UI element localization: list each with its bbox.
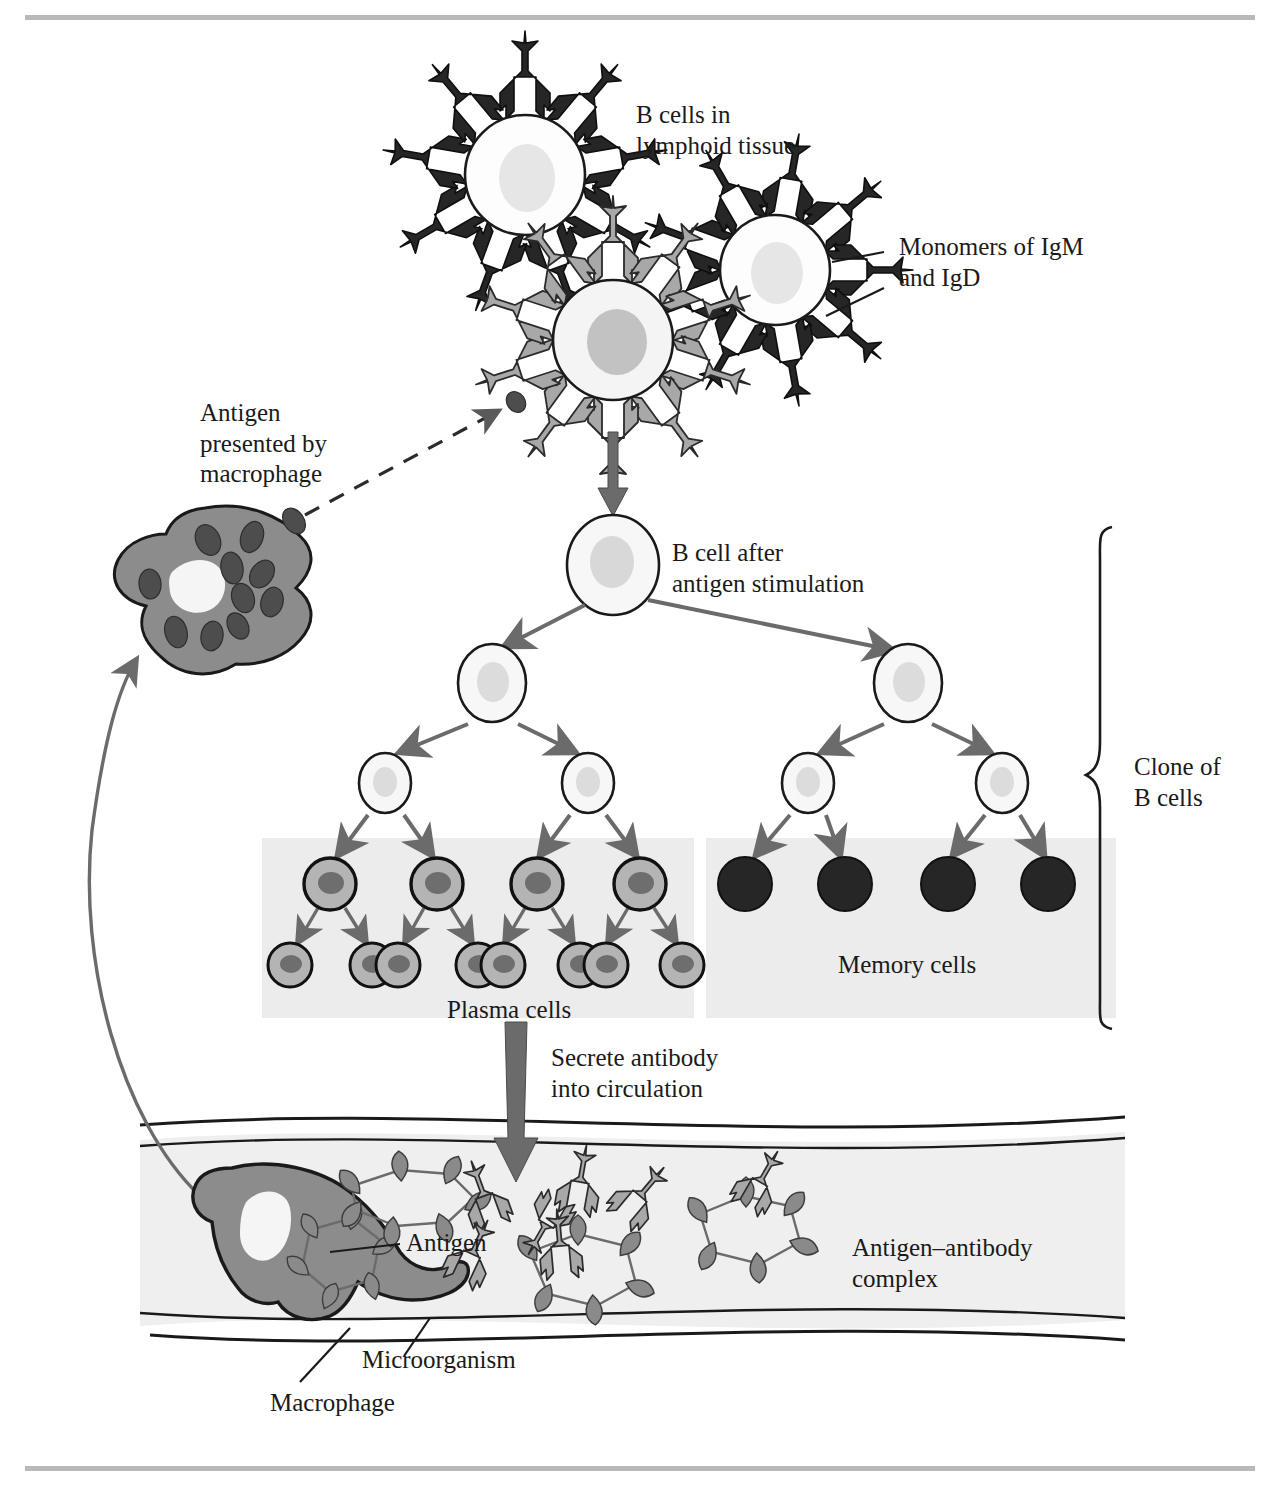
circulation-return-arrow <box>89 660 200 1196</box>
immune-response-diagram <box>0 0 1286 1492</box>
label-secrete-antibody: Secrete antibody into circulation <box>551 1043 718 1104</box>
label-macrophage: Macrophage <box>270 1388 395 1419</box>
figure-canvas: B cells in lymphoid tissue Monomers of I… <box>0 0 1286 1492</box>
clone-generation-2 <box>359 753 1028 813</box>
label-b-cells-lymphoid: B cells in lymphoid tissue <box>636 100 795 161</box>
label-memory-cells: Memory cells <box>838 950 976 981</box>
label-b-cell-after-stimulation: B cell after antigen stimulation <box>672 538 864 599</box>
label-microorganism: Microorganism <box>362 1345 516 1376</box>
label-antigen-antibody-complex: Antigen–antibody complex <box>852 1233 1033 1294</box>
label-antigen: Antigen <box>406 1228 487 1259</box>
label-monomers-igm-igd: Monomers of IgM and IgD <box>899 232 1084 293</box>
clone-generation-1 <box>458 644 942 722</box>
label-clone-of-b-cells: Clone of B cells <box>1134 752 1221 813</box>
antigen-presentation-arrow <box>305 388 530 515</box>
label-plasma-cells: Plasma cells <box>447 995 571 1026</box>
antigen-presenting-macrophage <box>114 504 311 674</box>
b-cell-after-stimulation <box>567 515 659 615</box>
label-antigen-presented: Antigen presented by macrophage <box>200 398 327 490</box>
clonal-expansion-arrows <box>338 600 1044 855</box>
